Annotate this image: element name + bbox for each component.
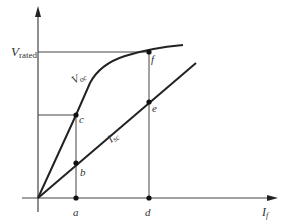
- point-c: [73, 112, 78, 117]
- point-a: [73, 195, 78, 200]
- point-b: [73, 160, 78, 165]
- x-axis-label: If: [261, 205, 270, 220]
- scc-line: [38, 63, 196, 198]
- label-a: a: [73, 206, 79, 218]
- generator-characteristic-diagram: Vrated If Voc Isc a b c d e f: [0, 0, 289, 224]
- voc-label: Voc: [69, 68, 89, 87]
- label-f: f: [151, 53, 156, 65]
- point-e: [146, 99, 151, 104]
- v-rated-label: Vrated: [11, 44, 37, 60]
- label-b: b: [80, 166, 86, 178]
- y-axis-arrow-icon: [35, 6, 41, 17]
- label-d: d: [145, 206, 151, 218]
- x-axis-arrow-icon: [267, 195, 278, 201]
- occ-curve: [38, 45, 183, 198]
- label-c: c: [79, 113, 84, 125]
- isc-label: Isc: [104, 128, 122, 146]
- label-e: e: [152, 102, 157, 114]
- point-d: [146, 195, 151, 200]
